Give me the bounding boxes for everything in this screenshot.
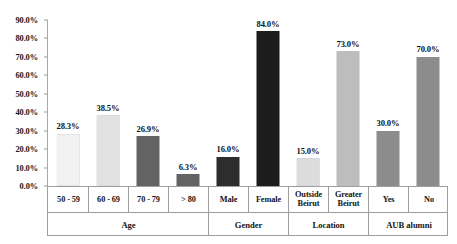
bar — [217, 157, 240, 187]
x-axis-group-label: Location — [289, 213, 369, 236]
bar-slot: 26.9% — [128, 20, 168, 186]
bar-value-label: 38.5% — [97, 103, 120, 113]
bar — [337, 51, 360, 186]
bar — [137, 136, 160, 186]
bar — [377, 131, 400, 186]
x-axis-group-label: Age — [49, 213, 209, 236]
y-axis-tick-label: 30.0% — [15, 126, 38, 135]
bar-slot: 15.0% — [288, 20, 328, 186]
bar-value-label: 30.0% — [377, 118, 400, 128]
bar — [97, 115, 120, 186]
bar — [177, 174, 200, 186]
bar-chart: 0.0%10.0%20.0%30.0%40.0%50.0%60.0%70.0%8… — [0, 0, 457, 244]
x-axis-category-label: > 80 — [169, 187, 209, 213]
plot-area: 28.3%38.5%26.9%6.3%16.0%84.0%15.0%73.0%3… — [48, 20, 448, 186]
bar-slot: 38.5% — [88, 20, 128, 186]
y-axis-tick-label: 40.0% — [15, 108, 38, 117]
x-axis-category-label: No — [409, 187, 449, 213]
bar-slot: 30.0% — [368, 20, 408, 186]
bar-value-label: 28.3% — [57, 121, 80, 131]
bar — [257, 31, 280, 186]
x-axis-category-label: Outside Beirut — [289, 187, 329, 213]
bar-value-label: 6.3% — [179, 162, 198, 172]
y-axis-tick-label: 0.0% — [20, 182, 38, 191]
bar-value-label: 26.9% — [137, 124, 160, 134]
bar-value-label: 73.0% — [337, 39, 360, 49]
bar-value-label: 84.0% — [257, 19, 280, 29]
y-axis: 0.0%10.0%20.0%30.0%40.0%50.0%60.0%70.0%8… — [0, 0, 44, 244]
bar-slot: 6.3% — [168, 20, 208, 186]
group-label-row: AgeGenderLocationAUB alumni — [48, 213, 447, 236]
y-axis-tick-label: 10.0% — [15, 163, 38, 172]
bar-value-label: 15.0% — [297, 146, 320, 156]
x-axis-label-table: 50 - 5960 - 6970 - 79> 80MaleFemaleOutsi… — [47, 186, 448, 236]
x-axis-category-label: 60 - 69 — [89, 187, 129, 213]
y-axis-tick-label: 50.0% — [15, 89, 38, 98]
bar — [417, 57, 440, 186]
bar-slot: 28.3% — [48, 20, 88, 186]
bar-slot: 84.0% — [248, 20, 288, 186]
x-axis-category-label: Greater Beirut — [329, 187, 369, 213]
x-axis-category-label: 50 - 59 — [49, 187, 89, 213]
bar-slot: 73.0% — [328, 20, 368, 186]
y-axis-tick-label: 20.0% — [15, 145, 38, 154]
y-axis-tick-label: 60.0% — [15, 71, 38, 80]
bar-slot: 16.0% — [208, 20, 248, 186]
bar-value-label: 16.0% — [217, 144, 240, 154]
category-label-row: 50 - 5960 - 6970 - 79> 80MaleFemaleOutsi… — [48, 187, 447, 213]
y-axis-tick-label: 70.0% — [15, 52, 38, 61]
bar — [57, 134, 80, 186]
x-axis-category-label: Male — [209, 187, 249, 213]
bar — [297, 158, 320, 186]
x-axis-category-label: Yes — [369, 187, 409, 213]
x-axis-group-label: Gender — [209, 213, 289, 236]
x-axis-group-label: AUB alumni — [369, 213, 449, 236]
x-axis-category-label: 70 - 79 — [129, 187, 169, 213]
x-axis-category-label: Female — [249, 187, 289, 213]
bar-value-label: 70.0% — [417, 44, 440, 54]
bar-slot: 70.0% — [408, 20, 448, 186]
y-axis-tick-label: 80.0% — [15, 34, 38, 43]
y-axis-tick-label: 90.0% — [15, 16, 38, 25]
